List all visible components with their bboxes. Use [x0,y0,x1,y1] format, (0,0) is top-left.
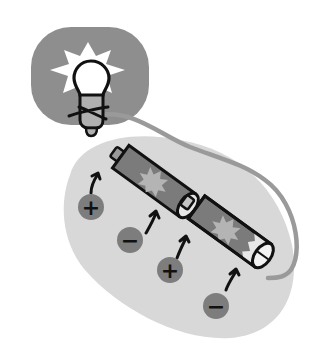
terminal-badge-3: + [157,257,183,283]
circuit-illustration: + − + − [0,0,326,346]
terminal-sign-2: − [121,228,139,253]
terminal-sign-1: + [82,195,100,220]
terminal-badge-2: − [117,227,143,253]
terminal-sign-3: + [161,258,179,283]
bulb-tip [86,128,97,136]
terminal-badge-4: − [203,293,229,319]
terminal-sign-4: − [207,294,225,319]
circuit-diagram: + − + − [0,0,326,346]
terminal-badge-1: + [78,194,104,220]
